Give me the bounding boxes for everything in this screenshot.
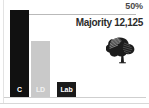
majority-threshold-line [26, 14, 136, 15]
bar-label-labour: Lab [57, 84, 76, 96]
election-bar-chart-panel: 50% Majority 12,125 C LD Lab [0, 0, 149, 108]
panel-bottom-divider [0, 103, 149, 104]
oak-tree-icon [106, 37, 139, 64]
left-divider [3, 0, 4, 104]
bar-label-liberal-democrat: LD [31, 84, 50, 96]
majority-value-label: Majority 12,125 [76, 17, 143, 29]
chart-baseline [4, 97, 146, 98]
threshold-percent-label: 50% [125, 1, 143, 12]
bar-label-conservative: C [10, 84, 29, 96]
